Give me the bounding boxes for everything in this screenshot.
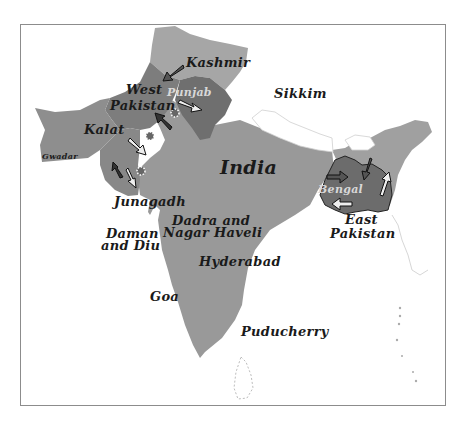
label-kashmir: Kashmir	[186, 56, 250, 69]
label-india: India	[220, 158, 277, 177]
label-kalat: Kalat	[84, 123, 125, 136]
andaman-islands	[396, 307, 417, 382]
label-puducherry: Puducherry	[241, 325, 329, 338]
label-hyderabad: Hyderabad	[199, 255, 281, 268]
burst-icon	[137, 167, 145, 175]
label-west-pakistan-2: Pakistan	[110, 99, 175, 112]
burst-icon	[146, 132, 154, 140]
label-bengal: Bengal	[318, 184, 363, 195]
sri-lanka-outline	[234, 357, 253, 399]
label-goa: Goa	[150, 290, 179, 303]
label-punjab: Punjab	[167, 87, 212, 98]
label-sikkim: Sikkim	[274, 87, 327, 100]
label-dadra-2: Nagar Haveli	[163, 226, 262, 239]
label-daman-2: and Diu	[101, 239, 160, 252]
label-east-pakistan-2: Pakistan	[330, 227, 395, 240]
label-west-pakistan-1: West	[126, 83, 162, 96]
label-gwadar: Gwadar	[42, 152, 78, 160]
label-east-pakistan-1: East	[345, 213, 378, 226]
label-junagadh: Junagadh	[114, 195, 186, 208]
burma-coast	[392, 215, 428, 275]
